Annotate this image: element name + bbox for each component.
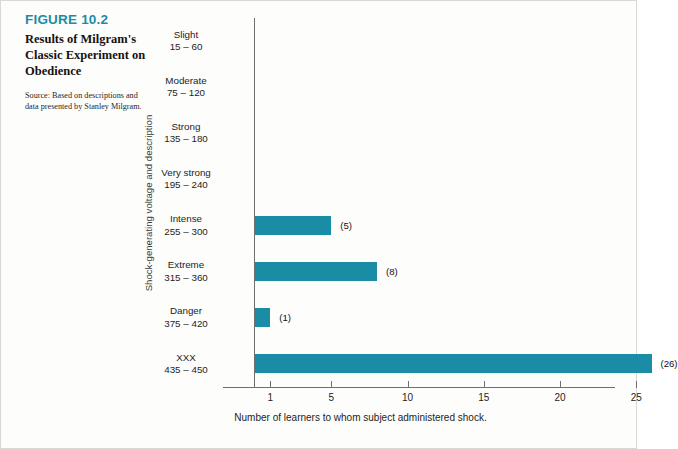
category-label: Extreme315 – 360 <box>126 259 246 284</box>
x-axis-tick-label: 15 <box>469 392 499 403</box>
bar-chart: Shock-generating voltage and description… <box>1 1 638 449</box>
category-label-name: Very strong <box>126 167 246 179</box>
category-label-name: Intense <box>126 213 246 225</box>
bar <box>255 308 270 327</box>
x-axis-tick <box>636 381 637 388</box>
x-axis-tick <box>560 381 561 388</box>
x-axis-tick-label: 10 <box>393 392 423 403</box>
x-axis-tick <box>270 381 271 388</box>
category-label-range: 195 – 240 <box>126 179 246 191</box>
category-label-range: 375 – 420 <box>126 318 246 330</box>
category-label-name: Strong <box>126 121 246 133</box>
category-label: Strong135 – 180 <box>126 121 246 146</box>
y-axis-line <box>254 18 255 387</box>
category-label-range: 315 – 360 <box>126 272 246 284</box>
category-label-range: 255 – 300 <box>126 226 246 238</box>
category-label-range: 15 – 60 <box>126 41 246 53</box>
category-label: Slight15 – 60 <box>126 29 246 54</box>
x-axis-tick-label: 20 <box>545 392 575 403</box>
x-axis-tick-label: 1 <box>255 392 285 403</box>
bar-value-label: (1) <box>279 312 291 324</box>
category-label: Very strong195 – 240 <box>126 167 246 192</box>
x-axis-title: Number of learners to whom subject admin… <box>1 412 638 423</box>
category-label-range: 135 – 180 <box>126 133 246 145</box>
x-axis-tick <box>408 381 409 388</box>
bar <box>255 216 331 235</box>
x-axis-tick-label: 5 <box>316 392 346 403</box>
category-label-name: Danger <box>126 305 246 317</box>
category-label: Intense255 – 300 <box>126 213 246 238</box>
bar <box>255 262 377 281</box>
bar-value-label: (8) <box>386 266 398 278</box>
x-axis-line <box>223 387 615 388</box>
category-label: Moderate75 – 120 <box>126 75 246 100</box>
category-label-name: XXX <box>126 352 246 364</box>
category-label-name: Slight <box>126 29 246 41</box>
bar <box>255 354 652 373</box>
category-label: Danger375 – 420 <box>126 305 246 330</box>
bar-value-label: (5) <box>340 220 352 232</box>
category-label-range: 435 – 450 <box>126 364 246 376</box>
category-label-name: Extreme <box>126 259 246 271</box>
x-axis-tick <box>331 381 332 388</box>
x-axis-tick-label: 25 <box>621 392 651 403</box>
category-label-name: Moderate <box>126 75 246 87</box>
category-label-range: 75 – 120 <box>126 87 246 99</box>
x-axis-tick <box>484 381 485 388</box>
category-label: XXX435 – 450 <box>126 352 246 377</box>
bar-value-label: (26) <box>661 358 678 370</box>
